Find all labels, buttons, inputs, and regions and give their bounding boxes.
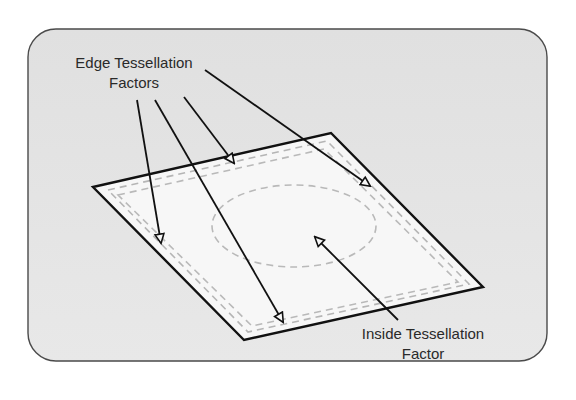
inside-tessellation-label: Inside Tessellation Factor xyxy=(348,324,498,364)
inside-label-line1: Inside Tessellation xyxy=(348,324,498,344)
edge-tessellation-label: Edge Tessellation Factors xyxy=(58,53,210,93)
edge-label-line2: Factors xyxy=(58,73,210,93)
edge-label-line1: Edge Tessellation xyxy=(58,53,210,73)
inside-label-line2: Factor xyxy=(348,344,498,364)
